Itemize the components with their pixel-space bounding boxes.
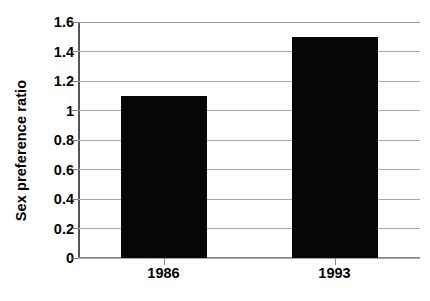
y-tick-label: 0.2 <box>40 221 74 236</box>
y-tick-label: 1.4 <box>40 44 74 59</box>
y-tick-mark <box>72 228 78 229</box>
x-tick-mark <box>164 258 165 265</box>
y-tick-label: 0.6 <box>40 162 74 177</box>
y-tick-label: 0.4 <box>40 192 74 207</box>
y-tick-mark <box>72 51 78 52</box>
y-tick-label: 0 <box>40 251 74 266</box>
x-axis-tick-labels: 19861993 <box>78 266 420 288</box>
y-tick-mark <box>72 258 78 259</box>
y-tick-label: 0.8 <box>40 133 74 148</box>
y-axis-tick-labels: 00.20.40.60.811.21.41.6 <box>40 22 74 258</box>
y-tick-mark <box>72 110 78 111</box>
x-tick-label: 1993 <box>318 266 350 281</box>
y-tick-label: 1 <box>40 103 74 118</box>
y-axis-title: Sex preference ratio <box>0 0 42 301</box>
plot-area <box>78 22 420 258</box>
y-tick-mark <box>72 140 78 141</box>
bar-1986 <box>121 96 207 258</box>
y-tick-mark <box>72 22 78 23</box>
x-tick-mark <box>335 258 336 265</box>
y-tick-mark <box>72 81 78 82</box>
x-tick-label: 1986 <box>147 266 179 281</box>
gridline <box>78 22 420 23</box>
y-tick-label: 1.2 <box>40 74 74 89</box>
y-tick-label: 1.6 <box>40 15 74 30</box>
bar-1993 <box>292 37 378 258</box>
bar-chart: Sex preference ratio 00.20.40.60.811.21.… <box>0 0 430 301</box>
y-tick-mark <box>72 169 78 170</box>
y-tick-mark <box>72 199 78 200</box>
